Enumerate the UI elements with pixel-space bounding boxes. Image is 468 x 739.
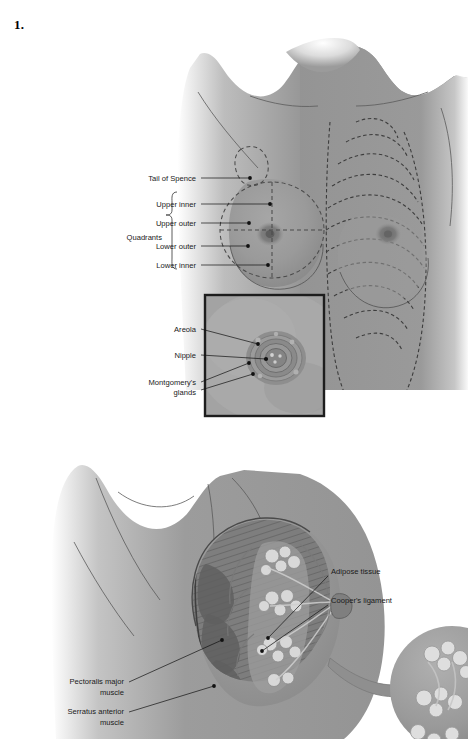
- label-upper-inner: Upper inner: [156, 200, 196, 209]
- label-tail-of-spence: Tail of Spence: [148, 174, 196, 183]
- label-pectoralis-major-line1: Pectoralis major: [70, 677, 125, 686]
- label-serratus-anterior-line1: Serratus anterior: [67, 707, 124, 716]
- figure-breast-cross-section: Adipose tissue Cooper's ligament Pectora…: [0, 448, 468, 739]
- label-coopers-ligament: Cooper's ligament: [331, 596, 393, 605]
- label-serratus-anterior-line2: muscle: [100, 718, 124, 727]
- label-adipose-tissue: Adipose tissue: [331, 567, 380, 576]
- label-montgomerys-glands-line2: glands: [174, 388, 197, 397]
- label-montgomerys-glands-line1: Montgomery's: [149, 378, 197, 387]
- label-areola: Areola: [174, 325, 197, 334]
- illustration-page: 1.: [0, 0, 468, 739]
- figure-breast-surface-anatomy: Tail of Spence Upper inner Upper outer L…: [0, 22, 468, 412]
- label-pectoralis-major-line2: muscle: [100, 688, 124, 697]
- label-lower-inner: Lower inner: [156, 261, 196, 270]
- magnified-lobule-inset: [390, 626, 468, 739]
- label-lower-outer: Lower outer: [156, 242, 197, 251]
- label-quadrants: Quadrants: [127, 233, 163, 242]
- label-upper-outer: Upper outer: [156, 219, 197, 228]
- label-nipple: Nipple: [174, 351, 196, 360]
